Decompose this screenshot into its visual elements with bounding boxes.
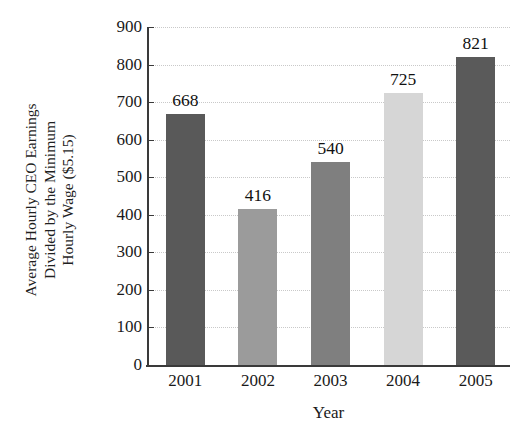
x-axis-title: Year bbox=[147, 403, 510, 423]
plot-area: 0100200300400500600700800900 66841654072… bbox=[147, 27, 510, 365]
x-axis-tick-label: 2005 bbox=[459, 371, 493, 391]
y-axis-tick-mark bbox=[147, 65, 154, 66]
y-axis-tick-label: 200 bbox=[117, 280, 143, 300]
x-axis-tick-label: 2004 bbox=[386, 371, 420, 391]
y-axis-tick-mark bbox=[147, 290, 154, 291]
y-axis-tick-label: 700 bbox=[117, 92, 143, 112]
y-axis-tick-label: 0 bbox=[134, 355, 143, 375]
clipped-chart-title bbox=[150, 0, 480, 3]
y-axis-tick-label: 800 bbox=[117, 55, 143, 75]
y-axis-tick-label: 900 bbox=[117, 17, 143, 37]
y-axis-title-line-3: Hourly Wage ($5.15) bbox=[59, 134, 78, 265]
y-axis-title-line-2: Divided by the Minimum bbox=[41, 121, 60, 279]
bar: 540 bbox=[311, 162, 350, 365]
bar: 821 bbox=[456, 57, 495, 365]
gridline bbox=[147, 27, 510, 28]
x-axis-line bbox=[146, 365, 510, 367]
y-axis-tick-label: 400 bbox=[117, 205, 143, 225]
y-axis-line bbox=[147, 27, 149, 365]
bar-value-label: 668 bbox=[172, 90, 198, 111]
y-axis-tick-label: 300 bbox=[117, 242, 143, 262]
y-axis-tick-label: 600 bbox=[117, 130, 143, 150]
bar: 416 bbox=[238, 209, 277, 365]
x-axis-tick-label: 2003 bbox=[314, 371, 348, 391]
bar-value-label: 540 bbox=[317, 138, 343, 159]
x-axis-tick-label: 2002 bbox=[241, 371, 275, 391]
y-axis-tick-mark bbox=[147, 252, 154, 253]
y-axis-tick-mark bbox=[147, 327, 154, 328]
bar-value-label: 821 bbox=[463, 33, 489, 54]
bar: 668 bbox=[166, 114, 205, 365]
x-axis-tick-label: 2001 bbox=[168, 371, 202, 391]
bar: 725 bbox=[384, 93, 423, 365]
y-axis-title-line-1: Average Hourly CEO Earnings bbox=[22, 104, 41, 297]
y-axis-tick-label: 500 bbox=[117, 167, 143, 187]
y-axis-tick-mark bbox=[147, 27, 154, 28]
y-axis-tick-mark bbox=[147, 215, 154, 216]
y-axis-title: Average Hourly CEO Earnings Divided by t… bbox=[20, 25, 80, 375]
y-axis-tick-mark bbox=[147, 102, 154, 103]
y-axis-tick-label: 100 bbox=[117, 317, 143, 337]
bar-value-label: 725 bbox=[390, 69, 416, 90]
y-axis-tick-mark bbox=[147, 140, 154, 141]
bar-chart: Average Hourly CEO Earnings Divided by t… bbox=[0, 0, 521, 439]
bar-value-label: 416 bbox=[245, 185, 271, 206]
y-axis-tick-mark bbox=[147, 365, 154, 366]
y-axis-tick-mark bbox=[147, 177, 154, 178]
